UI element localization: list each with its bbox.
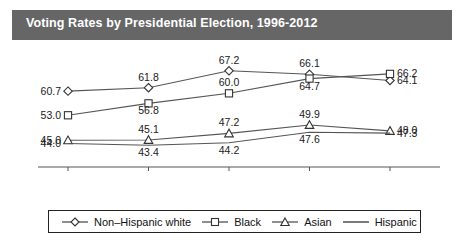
legend-label: Asian [304,216,332,228]
legend-label: Hispanic [375,216,417,228]
square-icon [201,216,229,228]
data-point-label: 66.2 [397,67,418,79]
x-axis-tick-label: 2008 [297,173,321,174]
page-title: Voting Rates by Presidential Election, 1… [26,16,317,30]
diamond-icon [61,216,89,228]
legend-item-hispanic[interactable]: Hispanic [342,216,417,228]
data-point-marker [225,90,232,97]
data-point-label: 45.1 [138,123,159,135]
legend-label: Non–Hispanic white [94,216,191,228]
data-point-label: 47.2 [219,116,240,128]
data-point-marker [64,87,72,95]
data-point-label: 49.9 [299,108,320,120]
triangle-icon [271,216,299,228]
legend-item-black[interactable]: Black [201,216,261,228]
data-point-label: 66.1 [299,57,320,69]
data-point-marker [225,67,233,75]
data-point-marker [386,70,393,77]
chart-legend: Non–Hispanic white Black Asian Hispanic [48,210,421,233]
chart-plot-area: 1996200020042008201260.761.867.266.164.1… [0,44,469,174]
data-point-label: 44.0 [41,137,62,149]
data-point-label: 43.4 [138,146,159,158]
x-axis-tick-label: 2012 [378,173,402,174]
data-point-marker [64,112,71,119]
line-icon [342,216,370,228]
data-point-label: 44.2 [219,144,240,156]
x-axis-tick-label: 2000 [136,173,160,174]
data-point-label: 67.2 [219,54,240,66]
legend-label: Black [234,216,261,228]
chart-title-bar: Voting Rates by Presidential Election, 1… [12,10,452,40]
data-point-label: 60.7 [41,85,62,97]
data-point-label: 64.7 [299,80,320,92]
data-point-label: 61.8 [138,71,159,83]
x-axis-tick-label: 2004 [217,173,241,174]
line-chart: 1996200020042008201260.761.867.266.164.1… [0,44,469,174]
data-point-label: 47.6 [299,133,320,145]
chart-page: Voting Rates by Presidential Election, 1… [0,0,469,244]
x-axis-tick-label: 1996 [56,173,80,174]
data-point-label: 53.0 [41,109,62,121]
data-point-label: 47.3 [397,127,418,139]
legend-item-asian[interactable]: Asian [271,216,332,228]
data-point-label: 60.0 [219,76,240,88]
data-point-marker [305,121,314,129]
data-point-marker [144,83,152,91]
data-point-label: 56.8 [138,104,159,116]
legend-item-non-hispanic-white[interactable]: Non–Hispanic white [61,216,191,228]
